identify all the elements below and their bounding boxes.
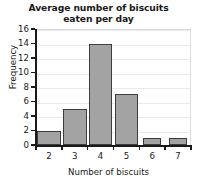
gridline — [36, 45, 190, 46]
bar — [169, 138, 187, 145]
bar — [143, 138, 161, 145]
y-axis-tick-label: 12 — [5, 54, 29, 63]
bar — [37, 131, 61, 146]
x-axis-tick — [61, 146, 63, 150]
x-axis-tick — [87, 146, 89, 150]
x-axis-tick-label: 2 — [39, 152, 59, 161]
chart-title-line-2: eaten per day — [10, 13, 187, 24]
plot-area — [36, 29, 191, 145]
y-axis-tick — [31, 72, 35, 74]
x-axis-tick — [113, 146, 115, 150]
y-axis-tick-label: 8 — [5, 83, 29, 92]
y-axis-tick — [31, 28, 35, 30]
y-axis-tick-label: 4 — [5, 112, 29, 121]
y-axis-tick — [31, 130, 35, 132]
x-axis-tick-label: 4 — [91, 152, 111, 161]
y-axis-tick-label: 14 — [5, 39, 29, 48]
y-axis-tick-label: 16 — [5, 25, 29, 34]
gridline — [36, 117, 190, 118]
gridline — [36, 30, 190, 31]
y-axis-tick-label: 2 — [5, 126, 29, 135]
bar — [63, 109, 87, 145]
x-axis-label: Number of biscuits — [20, 167, 197, 177]
x-axis-tick-label: 5 — [116, 152, 136, 161]
gridline — [36, 88, 190, 89]
x-axis-tick — [190, 146, 192, 150]
y-axis-tick — [31, 86, 35, 88]
bar — [89, 44, 113, 146]
chart-title-line-1: Average number of biscuits — [10, 2, 187, 13]
y-axis-tick-label: 10 — [5, 68, 29, 77]
y-axis-tick-label: 0 — [5, 141, 29, 150]
x-axis-tick — [35, 146, 37, 150]
y-axis-tick-label: 6 — [5, 97, 29, 106]
gridline — [36, 74, 190, 75]
x-axis-tick-label: 6 — [142, 152, 162, 161]
bar-chart: Average number of biscuits eaten per day… — [0, 0, 197, 185]
x-axis-tick-label: 7 — [168, 152, 188, 161]
x-axis-tick-label: 3 — [65, 152, 85, 161]
y-axis-tick — [31, 43, 35, 45]
y-axis-tick — [31, 57, 35, 59]
y-axis-tick — [31, 101, 35, 103]
gridline — [36, 59, 190, 60]
chart-title: Average number of biscuits eaten per day — [10, 2, 187, 24]
x-axis-tick — [139, 146, 141, 150]
bar — [115, 94, 139, 145]
x-axis-tick — [164, 146, 166, 150]
y-axis-tick — [31, 115, 35, 117]
y-axis-line — [35, 29, 37, 146]
gridline — [36, 103, 190, 104]
